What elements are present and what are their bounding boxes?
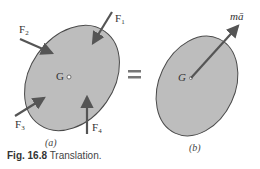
force-label-f2: F2: [19, 23, 29, 37]
panel-label-a: (a): [45, 137, 57, 148]
caption-number: Fig. 16.8: [7, 150, 47, 161]
figure-caption: Fig. 16.8 Translation.: [7, 150, 102, 161]
force-label-f1: F1: [115, 12, 125, 26]
center-of-mass-point-a: [67, 75, 71, 79]
center-of-mass-label-a: G: [56, 70, 64, 82]
equals-sign-top: [128, 70, 141, 73]
equals-sign-bottom: [128, 76, 141, 79]
force-label-f4: F4: [92, 121, 102, 135]
center-of-mass-label-b: G: [178, 71, 186, 83]
caption-text: Translation.: [50, 150, 102, 161]
force-label-f3: F3: [15, 118, 25, 132]
translation-diagram: G F1 F2 F3 F4 G mā: [0, 0, 260, 169]
rigid-body-b: [141, 23, 254, 149]
resultant-label-ma: mā: [230, 10, 244, 22]
panel-label-b: (b): [189, 142, 201, 153]
